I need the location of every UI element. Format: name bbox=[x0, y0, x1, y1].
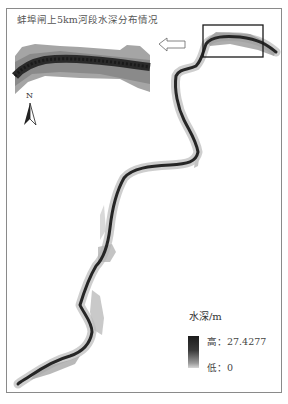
legend-low-label: 低：0 bbox=[207, 360, 233, 374]
left-arrow-icon bbox=[159, 38, 185, 51]
legend-gradient-bar bbox=[188, 336, 199, 368]
inset-river bbox=[15, 44, 150, 94]
north-arrow-icon bbox=[24, 103, 36, 125]
legend-high-label: 高：27.4277 bbox=[207, 334, 266, 348]
legend-title: 水深/m bbox=[189, 308, 222, 323]
north-label: N bbox=[26, 91, 33, 100]
